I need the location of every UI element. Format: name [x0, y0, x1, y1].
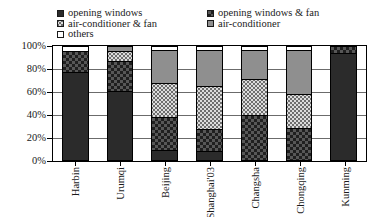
x-axis-tick-label: Changsha [249, 167, 260, 208]
solid-dark-swatch-icon [57, 10, 64, 17]
bar-segment[interactable] [108, 52, 133, 62]
solid-gray-swatch-icon [207, 20, 214, 27]
legend-label: air-conditioner & fan [68, 19, 157, 29]
x-axis-tick-mark [120, 162, 121, 166]
y-axis-tick-label: 0% [32, 156, 46, 166]
x-axis-tick-mark [255, 162, 256, 166]
y-axis-tick-label: 100% [22, 41, 47, 51]
bar-slot [142, 46, 187, 161]
plot-area [52, 45, 367, 162]
y-axis-tick-label: 80% [27, 64, 46, 74]
bar-segment[interactable] [197, 130, 222, 153]
stacked-bar[interactable] [330, 46, 357, 161]
bar-segment[interactable] [197, 51, 222, 87]
x-axis-tick-mark [165, 162, 166, 166]
speckled-light-swatch-icon [57, 20, 64, 27]
legend-label: others [68, 29, 94, 39]
bar-segment[interactable] [152, 51, 177, 84]
x-axis-slot: Kunming [322, 162, 367, 217]
bar-segment[interactable] [108, 62, 133, 92]
x-axis-tick-label: Kunming [339, 167, 350, 207]
x-axis: HarbinUrumqiBeijingShanghai'03ChangshaCh… [52, 162, 367, 217]
bar-segment[interactable] [108, 92, 133, 160]
legend-label: air-conditioner [218, 19, 280, 29]
bar-segment[interactable] [152, 84, 177, 118]
x-axis-slot: Harbin [52, 162, 97, 217]
y-axis: 0%20%40%60%80%100% [0, 45, 52, 162]
bar-group [53, 46, 366, 161]
y-axis-tick-label: 60% [27, 87, 46, 97]
legend-item-air-conditioner-fan: air-conditioner & fan [57, 19, 207, 29]
x-axis-slot: Shanghai'03 [187, 162, 232, 217]
stacked-bar[interactable] [107, 46, 134, 161]
stacked-bar[interactable] [286, 46, 313, 161]
legend-item-opening-windows: opening windows [57, 8, 207, 18]
bar-segment[interactable] [197, 152, 222, 160]
checkered-dark-swatch-icon [207, 10, 214, 17]
bar-segment[interactable] [197, 87, 222, 129]
x-axis-tick-mark [75, 162, 76, 166]
chart-legend: opening windows opening windows & fan ai… [57, 8, 369, 39]
x-axis-slot: Changsha [232, 162, 277, 217]
bar-segment[interactable] [152, 118, 177, 152]
x-axis-slot: Beijing [142, 162, 187, 217]
bar-slot [277, 46, 322, 161]
stacked-bar[interactable] [151, 46, 178, 161]
legend-item-air-conditioner: air-conditioner [207, 19, 369, 29]
x-axis-tick-mark [210, 162, 211, 166]
y-axis-tick-label: 20% [27, 133, 46, 143]
bar-segment[interactable] [331, 47, 356, 54]
legend-spacer [207, 29, 369, 39]
bar-segment[interactable] [63, 52, 88, 73]
bar-slot [53, 46, 98, 161]
x-axis-slot: Chongqing [277, 162, 322, 217]
bar-segment[interactable] [287, 129, 312, 160]
legend-label: opening windows & fan [218, 8, 319, 18]
stacked-bar[interactable] [196, 46, 223, 161]
x-axis-slot: Urumqi [97, 162, 142, 217]
legend-row: opening windows opening windows & fan [57, 8, 369, 18]
bar-slot [98, 46, 143, 161]
bar-segment[interactable] [287, 95, 312, 129]
bar-segment[interactable] [152, 151, 177, 160]
legend-label: opening windows [68, 8, 142, 18]
legend-item-others: others [57, 29, 207, 39]
x-axis-tick-label: Chongqing [294, 167, 305, 214]
legend-row: others [57, 29, 369, 39]
stacked-bar[interactable] [241, 46, 268, 161]
white-swatch-icon [57, 31, 64, 38]
bar-slot [321, 46, 366, 161]
legend-row: air-conditioner & fan air-conditioner [57, 19, 369, 29]
x-axis-tick-label: Harbin [69, 167, 80, 196]
bar-segment[interactable] [242, 116, 267, 160]
legend-item-opening-windows-fan: opening windows & fan [207, 8, 369, 18]
bar-segment[interactable] [242, 51, 267, 80]
bar-segment[interactable] [287, 51, 312, 95]
bar-slot [187, 46, 232, 161]
bar-segment[interactable] [331, 54, 356, 160]
x-axis-tick-label: Beijing [159, 167, 170, 198]
bar-segment[interactable] [63, 73, 88, 160]
bar-slot [232, 46, 277, 161]
bar-segment[interactable] [242, 80, 267, 116]
x-axis-tick-label: Shanghai'03 [204, 167, 215, 217]
x-axis-tick-mark [345, 162, 346, 166]
x-axis-tick-label: Urumqi [114, 167, 125, 200]
stacked-bar[interactable] [62, 46, 89, 161]
y-axis-tick-label: 40% [27, 110, 46, 120]
x-axis-tick-mark [300, 162, 301, 166]
